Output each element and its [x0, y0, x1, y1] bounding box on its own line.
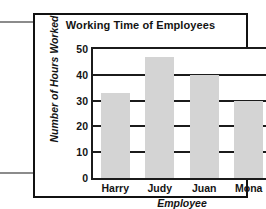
plot-inner — [93, 49, 266, 178]
y-tick-label: 20 — [76, 120, 88, 132]
bar-harry — [101, 93, 130, 178]
y-tick-label: 30 — [76, 95, 88, 107]
x-tick-label-judy: Judy — [147, 182, 172, 194]
x-tick-label-juan: Juan — [192, 182, 217, 194]
y-tick-label: 50 — [76, 43, 88, 55]
arrow-shaft — [0, 21, 36, 23]
y-tick-label: 10 — [76, 146, 88, 158]
chart-title: Working Time of Employees — [35, 19, 246, 31]
x-tick-label-harry: Harry — [102, 182, 129, 194]
figure-frame: Working Time of Employees Number of Hour… — [33, 13, 248, 198]
y-tick-label: 0 — [82, 172, 88, 184]
plot-area: 01020304050 HarryJudyJuanMona — [91, 47, 266, 180]
x-tick-label-mona: Mona — [235, 182, 262, 194]
y-tick-label: 40 — [76, 69, 88, 81]
y-axis-title: Number of Hours Worked — [48, 14, 60, 144]
bar-juan — [190, 75, 219, 178]
x-axis-title: Employee — [91, 197, 266, 209]
arrow-shaft — [0, 172, 36, 174]
gridline — [93, 74, 266, 76]
bar-mona — [234, 101, 263, 178]
bar-judy — [145, 57, 174, 178]
